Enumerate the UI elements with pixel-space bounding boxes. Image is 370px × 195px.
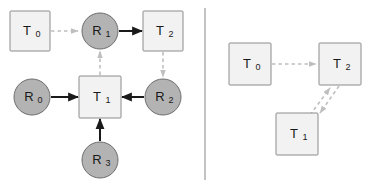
node-R2-left[interactable]: R 2 bbox=[145, 79, 181, 115]
node-T2-right[interactable]: T 2 bbox=[319, 43, 361, 85]
graph-diagram: T 0 R 1 T 2 R 0 T 1 bbox=[0, 0, 370, 195]
edge-T1-to-T2-right bbox=[310, 88, 330, 115]
left-panel-group: T 0 R 1 T 2 R 0 T 1 bbox=[10, 11, 183, 178]
node-R1-left[interactable]: R 1 bbox=[82, 13, 118, 49]
edge-T2-to-T1-right bbox=[320, 86, 339, 113]
figure-canvas: T 0 R 1 T 2 R 0 T 1 bbox=[0, 0, 370, 195]
node-R0-left[interactable]: R 0 bbox=[14, 79, 50, 115]
node-T1-right[interactable]: T 1 bbox=[276, 113, 318, 155]
node-T2-left[interactable]: T 2 bbox=[143, 11, 183, 51]
right-panel-group: T 0 T 2 T 1 bbox=[229, 43, 361, 155]
node-T1-left[interactable]: T 1 bbox=[79, 76, 121, 118]
node-T0-right[interactable]: T 0 bbox=[229, 43, 271, 85]
node-R3-left[interactable]: R 3 bbox=[82, 142, 118, 178]
node-T0-left[interactable]: T 0 bbox=[10, 11, 50, 51]
